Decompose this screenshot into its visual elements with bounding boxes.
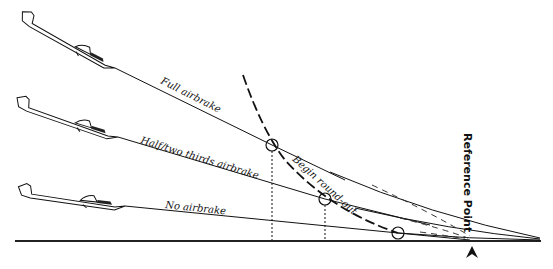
full-airbrake-flare bbox=[330, 172, 540, 238]
reference-arrow-icon bbox=[466, 246, 478, 258]
label-half-airbrake: Half/two thirds airbrake bbox=[138, 134, 260, 181]
label-no-airbrake: No airbrake bbox=[164, 199, 227, 216]
label-begin-roundout: Begin round-out bbox=[290, 153, 360, 218]
half-airbrake-flare bbox=[355, 208, 540, 239]
full-airbrake-path bbox=[115, 68, 272, 145]
glider-full-airbrake-icon bbox=[16, 8, 120, 73]
label-reference-point: Reference Point bbox=[461, 133, 474, 232]
approach-diagram: Full airbrake Half/two thirds airbrake N… bbox=[0, 0, 553, 269]
glider-half-airbrake-icon bbox=[13, 94, 122, 143]
glider-no-airbrake-icon bbox=[17, 183, 126, 212]
label-full-airbrake: Full airbrake bbox=[158, 75, 223, 115]
roundout-curve bbox=[243, 75, 398, 233]
